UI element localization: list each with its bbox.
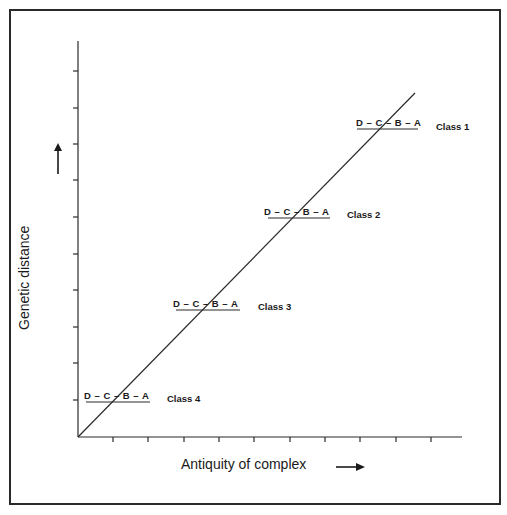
x-axis-label: Antiquity of complex	[181, 456, 306, 472]
x-ticks	[113, 437, 431, 442]
y-ticks	[73, 71, 78, 400]
class-3-sequence: D – C – B – A	[173, 298, 238, 309]
x-arrow-icon	[336, 463, 365, 471]
class-1-sequence: D – C – B – A	[356, 117, 421, 128]
class-2-label: Class 2	[347, 209, 380, 220]
y-arrow-icon	[54, 143, 62, 174]
class-3-label: Class 3	[258, 301, 291, 312]
diagram-plot	[0, 0, 507, 515]
trend-line	[78, 93, 415, 437]
class-2-sequence: D – C – B – A	[264, 206, 329, 217]
class-1-label: Class 1	[436, 121, 469, 132]
class-4-label: Class 4	[167, 393, 200, 404]
y-axis-label: Genetic distance	[16, 226, 32, 330]
class-4-sequence: D – C – B – A	[84, 390, 149, 401]
